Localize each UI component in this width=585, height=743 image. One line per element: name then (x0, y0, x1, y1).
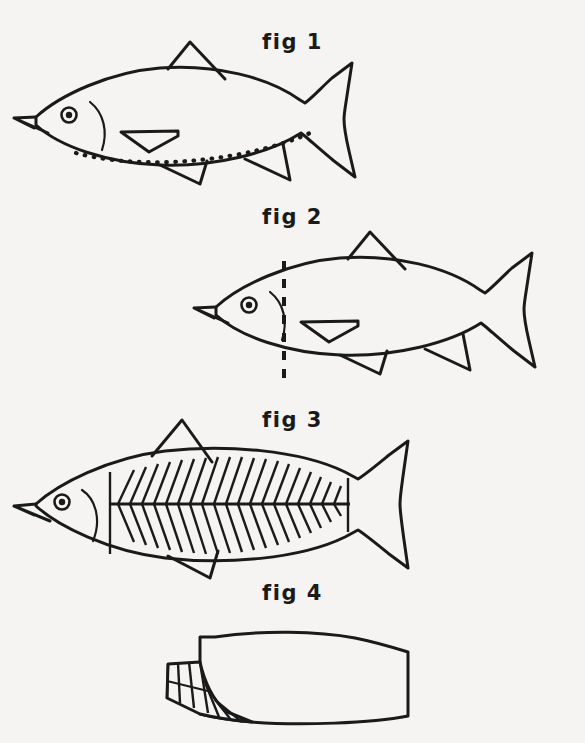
eye-pupil (59, 499, 65, 505)
fig-3-label: fig 3 (0, 408, 585, 432)
fig-1-artwork (0, 55, 585, 200)
eye-pupil (246, 302, 252, 308)
fig-2-artwork (0, 245, 585, 405)
figure-fig-1: fig 1 (0, 0, 585, 200)
figure-fig-3: fig 3 (0, 400, 585, 580)
fig-4-label: fig 4 (0, 581, 585, 605)
figure-fig-2: fig 2 (0, 198, 585, 403)
fig-2-label: fig 2 (0, 205, 585, 229)
fig-1-label: fig 1 (0, 30, 585, 54)
fillet-outline (200, 632, 408, 724)
fish-body-outline (216, 253, 535, 367)
fig-4-artwork (0, 618, 585, 743)
figure-sheet: fig 1 (0, 0, 585, 743)
figure-fig-4: fig 4 (0, 575, 585, 743)
fig-3-artwork (0, 432, 585, 580)
eye-pupil (66, 112, 72, 118)
